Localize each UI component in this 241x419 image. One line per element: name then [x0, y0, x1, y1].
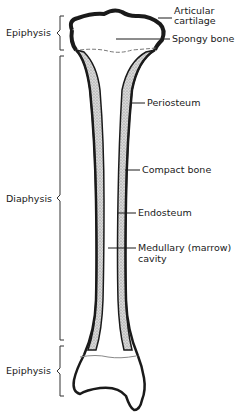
- label-periosteum: Periosteum: [147, 98, 200, 108]
- epiphyseal-line-top: [80, 48, 156, 52]
- bone-diagram: [0, 0, 241, 419]
- right-cortex: [118, 50, 156, 350]
- label-articular-cartilage-2: cartilage: [174, 16, 216, 26]
- label-spongy-bone: Spongy bone: [172, 34, 234, 44]
- bracket-epiphysis-bottom: [57, 346, 64, 396]
- label-diaphysis: Diaphysis: [6, 194, 52, 204]
- label-epiphysis-bottom: Epiphysis: [6, 366, 51, 376]
- label-compact-bone: Compact bone: [142, 165, 211, 175]
- epiphyseal-line-bottom: [80, 356, 136, 358]
- proximal-epiphysis: [71, 10, 164, 50]
- distal-epiphysis: [74, 355, 145, 410]
- label-epiphysis-top: Epiphysis: [6, 28, 51, 38]
- bracket-epiphysis-top: [57, 16, 64, 50]
- label-medullary-2: cavity: [138, 254, 167, 264]
- label-medullary-1: Medullary (marrow): [138, 243, 231, 253]
- label-endosteum: Endosteum: [138, 208, 192, 218]
- bracket-diaphysis: [57, 56, 64, 340]
